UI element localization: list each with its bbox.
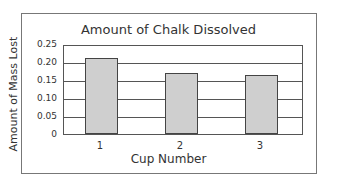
y-tick-label: 0.15 bbox=[17, 75, 57, 85]
x-tick-label: 3 bbox=[250, 140, 270, 151]
y-tick-label: 0 bbox=[17, 129, 57, 139]
bar-cup-3 bbox=[245, 75, 278, 134]
chart-title: Amount of Chalk Dissolved bbox=[0, 22, 337, 37]
bar-cup-1 bbox=[85, 58, 118, 134]
x-tick-label: 2 bbox=[170, 140, 190, 151]
x-axis-label: Cup Number bbox=[0, 152, 337, 166]
x-tick-label: 1 bbox=[90, 140, 110, 151]
y-tick-label: 0.10 bbox=[17, 93, 57, 103]
bar-cup-2 bbox=[165, 73, 198, 134]
y-tick-label: 0.05 bbox=[17, 111, 57, 121]
y-tick-label: 0.20 bbox=[17, 57, 57, 67]
y-tick-label: 0.25 bbox=[17, 39, 57, 49]
plot-area bbox=[63, 45, 303, 135]
